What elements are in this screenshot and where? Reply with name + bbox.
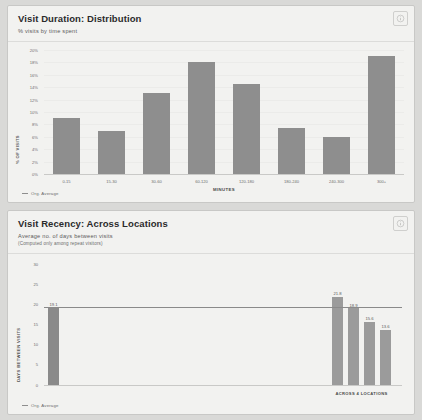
y-axis-tick: 2%: [32, 159, 38, 164]
average-line: [44, 307, 402, 308]
dashboard-page: Visit Duration: Distribution % visits by…: [0, 0, 422, 420]
y-axis-tick-recency: 10: [33, 342, 38, 347]
bar[interactable]: [278, 128, 306, 175]
bar[interactable]: [323, 137, 351, 174]
card-header-visit-recency: Visit Recency: Across Locations Average …: [8, 211, 414, 250]
bar[interactable]: [53, 118, 81, 174]
bar-column[interactable]: [359, 50, 404, 174]
info-circle-glyph: [396, 14, 405, 23]
bar-recency[interactable]: [380, 330, 391, 385]
chart-visit-recency: DAYS BETWEEN VISITS 051015202530 19.121.…: [8, 254, 414, 409]
bar-value-label: 19.1: [49, 302, 57, 307]
x-axis-label: MINUTES: [213, 187, 235, 192]
x-axis-tick: 60-120: [195, 179, 208, 184]
bar-value-label: 21.8: [333, 291, 341, 296]
x-axis-tick: 180-240: [284, 179, 299, 184]
y-axis-tick-recency: 25: [33, 281, 38, 286]
legend-visit-duration: Org. Average: [22, 191, 59, 196]
bar-recency[interactable]: [48, 307, 59, 384]
bar-column[interactable]: [44, 50, 89, 174]
bar[interactable]: [98, 131, 126, 174]
bar[interactable]: [368, 56, 396, 174]
page-title: Visit Duration: Distribution: [18, 13, 404, 24]
y-axis-tick: 6%: [32, 134, 38, 139]
card-header-visit-duration: Visit Duration: Distribution % visits by…: [8, 6, 414, 38]
bar-series: [44, 50, 404, 174]
y-axis-tick: 18%: [30, 60, 38, 65]
bar-recency[interactable]: [348, 308, 359, 384]
card-visit-recency: Visit Recency: Across Locations Average …: [7, 210, 415, 415]
card-subtitle-recency: Average no. of days between visits: [18, 233, 404, 239]
legend-swatch-icon: [22, 193, 28, 195]
bar[interactable]: [188, 62, 216, 174]
bar-value-label: 13.6: [381, 324, 389, 329]
y-axis-tick-recency: 15: [33, 322, 38, 327]
y-axis-tick-recency: 0: [36, 382, 38, 387]
legend-swatch-icon-recency: [22, 405, 28, 407]
x-axis-tick: 15-30: [106, 179, 116, 184]
bar-value-label: 15.6: [365, 316, 373, 321]
bar-column[interactable]: [269, 50, 314, 174]
bar-column[interactable]: [314, 50, 359, 174]
x-axis-tick: 240-300: [329, 179, 344, 184]
y-axis-label: % OF VISITS: [15, 135, 20, 164]
bar[interactable]: [143, 93, 171, 174]
y-axis-tick: 0%: [32, 172, 38, 177]
x-axis-tick: 30-60: [151, 179, 161, 184]
bar-column[interactable]: [224, 50, 269, 174]
page-title-recency: Visit Recency: Across Locations: [18, 218, 404, 229]
y-axis-tick: 8%: [32, 122, 38, 127]
y-axis-tick: 20%: [30, 48, 38, 53]
y-axis-tick: 10%: [30, 110, 38, 115]
y-axis-label-recency: DAYS BETWEEN VISITS: [16, 327, 21, 381]
bar-recency[interactable]: [332, 297, 343, 385]
x-axis-tick: 300+: [377, 179, 386, 184]
chart-visit-duration: % OF VISITS 0%2%4%6%8%10%12%14%16%18%20%…: [8, 42, 414, 202]
info-circle-glyph-recency: [396, 219, 405, 228]
group-label: ACROSS 4 LOCATIONS: [335, 391, 387, 396]
y-axis-tick: 14%: [30, 85, 38, 90]
legend-label-recency: Org. Average: [31, 403, 59, 408]
legend-visit-recency: Org. Average: [22, 403, 59, 408]
legend-label: Org. Average: [31, 191, 59, 196]
bar-column[interactable]: [134, 50, 179, 174]
info-circle-icon-recency[interactable]: [393, 216, 408, 231]
info-circle-icon[interactable]: [393, 11, 408, 26]
y-axis-tick: 12%: [30, 97, 38, 102]
y-axis-tick-recency: 5: [36, 362, 38, 367]
bar-column[interactable]: [179, 50, 224, 174]
card-visit-duration: Visit Duration: Distribution % visits by…: [7, 5, 415, 203]
y-axis-tick-recency: 30: [33, 261, 38, 266]
bar[interactable]: [233, 84, 261, 174]
y-axis-tick: 16%: [30, 72, 38, 77]
x-axis-line-recency: [44, 385, 402, 386]
card-subtitle: % visits by time spent: [18, 28, 404, 34]
x-axis-line: [44, 174, 404, 175]
bar-recency[interactable]: [364, 322, 375, 385]
x-axis-tick: 0-15: [62, 179, 70, 184]
y-axis-tick: 4%: [32, 147, 38, 152]
bar-column[interactable]: [89, 50, 134, 174]
card-note-recency: (Computed only among repeat visitors): [18, 241, 404, 246]
y-axis-tick-recency: 20: [33, 301, 38, 306]
x-axis-tick: 120-180: [239, 179, 254, 184]
